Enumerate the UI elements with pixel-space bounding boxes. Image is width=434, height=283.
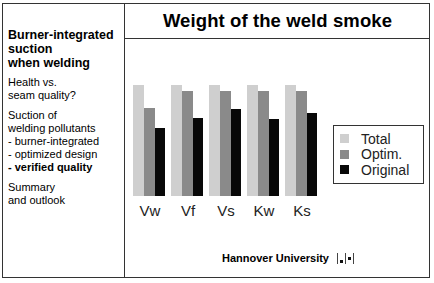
- slide-header: Weight of the weld smoke: [125, 3, 430, 39]
- chart-legend: TotalOptim.Original: [333, 125, 424, 184]
- bar-total: [171, 85, 182, 196]
- bar-group-vf: [171, 85, 205, 196]
- bar-optim: [258, 91, 269, 196]
- sidebar-topic-line: - optimized design: [8, 148, 124, 161]
- bar-chart: VwVfVsKwKs TotalOptim.Original: [125, 40, 430, 240]
- sidebar-topic-line: - burner-integrated: [8, 135, 124, 148]
- sidebar-topic-line: Health vs.: [8, 76, 124, 89]
- bar-total: [285, 85, 296, 196]
- x-tick-label: Vs: [206, 202, 246, 219]
- sidebar-topics: Health vs.seam quality?Suction ofwelding…: [8, 76, 124, 207]
- legend-label: Original: [361, 162, 409, 178]
- bar-group-ks: [285, 85, 319, 196]
- legend-swatch-icon: [340, 150, 349, 159]
- sidebar: Burner-integrated suction when welding H…: [2, 3, 125, 278]
- bar-orig: [231, 109, 241, 196]
- sidebar-topic-line: Summary: [8, 181, 124, 194]
- bar-orig: [193, 118, 203, 196]
- x-tick-label: Ks: [282, 202, 322, 219]
- legend-label: Total: [361, 131, 391, 147]
- x-tick-label: Kw: [244, 202, 284, 219]
- sidebar-topic-line: seam quality?: [8, 89, 124, 102]
- bar-orig: [155, 128, 165, 196]
- sidebar-topic-line: and outlook: [8, 194, 124, 207]
- sidebar-topic-line: Suction of: [8, 109, 124, 122]
- bar-optim: [296, 91, 307, 196]
- institution-name: Hannover University: [222, 252, 329, 264]
- bar-total: [133, 85, 144, 196]
- bar-optim: [182, 91, 193, 196]
- bar-total: [247, 85, 258, 196]
- legend-item: Total: [340, 131, 423, 147]
- legend-item: Original: [340, 162, 423, 178]
- bar-orig: [307, 113, 317, 196]
- sidebar-topic-line: welding pollutants: [8, 122, 124, 135]
- footer: Hannover University: [222, 252, 356, 264]
- x-tick-label: Vw: [130, 202, 170, 219]
- sidebar-title: Burner-integrated suction when welding: [8, 28, 124, 70]
- bar-group-vw: [133, 85, 167, 196]
- legend-swatch-icon: [340, 134, 349, 143]
- plot-area: [133, 85, 323, 196]
- sidebar-topic-line: - verified quality: [8, 161, 124, 174]
- sidebar-topic: Summaryand outlook: [8, 181, 124, 207]
- bar-orig: [269, 119, 279, 196]
- legend-item: Optim.: [340, 147, 423, 163]
- bar-optim: [144, 108, 155, 196]
- legend-label: Optim.: [361, 146, 402, 162]
- sidebar-topic: Suction ofwelding pollutants- burner-int…: [8, 109, 124, 174]
- bar-optim: [220, 91, 231, 196]
- legend-swatch-icon: [340, 165, 349, 174]
- university-logo-icon: [335, 252, 356, 264]
- bar-group-kw: [247, 85, 281, 196]
- slide-title: Weight of the weld smoke: [163, 10, 392, 32]
- x-tick-label: Vf: [168, 202, 208, 219]
- bar-group-vs: [209, 85, 243, 196]
- bar-total: [209, 85, 220, 196]
- sidebar-topic: Health vs.seam quality?: [8, 76, 124, 102]
